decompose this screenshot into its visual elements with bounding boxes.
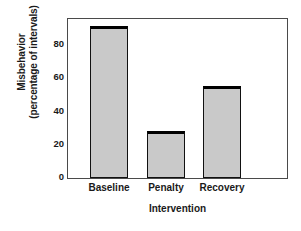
x-tick-label-recovery: Recovery [177, 182, 267, 194]
bar-penalty[interactable] [147, 131, 185, 178]
y-tick-label-80: 80 [53, 39, 64, 49]
y-tick-label-40: 40 [53, 106, 64, 116]
y-axis-title-line-2: (percentage of intervals) [28, 5, 41, 119]
y-tick-label-20: 20 [53, 139, 64, 149]
y-tick-label-0: 0 [59, 172, 64, 182]
bar-chart-figure: Misbehavior (percentage of intervals) 0 … [0, 0, 301, 231]
y-axis-title: Misbehavior (percentage of intervals) [8, 0, 48, 142]
bar-recovery[interactable] [203, 86, 241, 177]
y-axis-title-line-1: Misbehavior [16, 5, 29, 119]
bar-baseline[interactable] [90, 26, 128, 177]
x-axis-title: Intervention [67, 203, 288, 214]
y-tick-label-60: 60 [53, 72, 64, 82]
